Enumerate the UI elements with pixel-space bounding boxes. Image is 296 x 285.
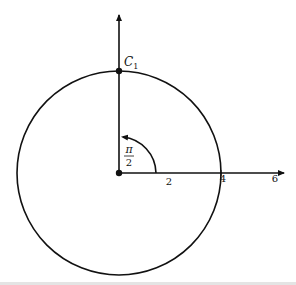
angle-label-denominator: 2 [126, 157, 132, 168]
tick-label-6: 6 [272, 173, 278, 184]
origin-point [116, 170, 122, 176]
angle-label-numerator: π [124, 143, 133, 156]
point-label-c1: C1 [124, 55, 138, 71]
polar-diagram: C1 π 2 2 4 6 [0, 0, 296, 285]
tick-label-2: 2 [166, 176, 172, 187]
tick-label-4: 4 [220, 173, 226, 184]
point-c1 [116, 68, 122, 74]
